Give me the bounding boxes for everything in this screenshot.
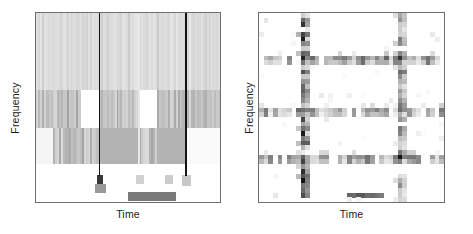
right-cell bbox=[268, 155, 273, 160]
right-cell bbox=[305, 174, 310, 179]
right-cell bbox=[398, 136, 403, 141]
right-cell bbox=[375, 108, 380, 113]
right-cell bbox=[301, 174, 306, 179]
right-cell bbox=[402, 84, 407, 89]
right-cell bbox=[435, 60, 440, 65]
right-cell bbox=[393, 103, 398, 108]
right-cell bbox=[426, 112, 431, 117]
right-cell bbox=[305, 145, 310, 150]
right-cell bbox=[352, 159, 357, 164]
right-cell bbox=[347, 93, 352, 98]
right-cell bbox=[305, 98, 310, 103]
right-y-axis-label-text: Frequency bbox=[243, 82, 255, 133]
left-cell bbox=[53, 128, 55, 164]
left-transient-line bbox=[185, 13, 187, 176]
right-cell bbox=[439, 159, 444, 164]
left-cell bbox=[141, 128, 143, 164]
right-cell bbox=[398, 145, 403, 150]
right-cell bbox=[264, 155, 269, 160]
right-cell bbox=[398, 193, 403, 198]
right-cell bbox=[398, 112, 403, 117]
right-cell bbox=[402, 70, 407, 75]
right-cell bbox=[370, 103, 375, 108]
right-cell bbox=[398, 159, 403, 164]
right-cell bbox=[402, 51, 407, 56]
right-cell bbox=[407, 56, 412, 61]
right-cell bbox=[333, 60, 338, 65]
right-cell bbox=[301, 131, 306, 136]
right-cell bbox=[264, 159, 269, 164]
right-cell bbox=[310, 108, 315, 113]
right-cell bbox=[338, 60, 343, 65]
left-cell bbox=[61, 128, 63, 164]
right-cell bbox=[375, 193, 380, 198]
right-cell bbox=[278, 51, 283, 56]
right-cell bbox=[296, 108, 301, 113]
right-cell bbox=[384, 155, 389, 160]
right-cell bbox=[389, 56, 394, 61]
right-cell bbox=[264, 108, 269, 113]
left-cell bbox=[69, 128, 71, 164]
right-cell bbox=[305, 56, 310, 61]
right-cell bbox=[273, 108, 278, 113]
right-cell bbox=[301, 56, 306, 61]
right-cell bbox=[393, 60, 398, 65]
right-cell bbox=[301, 65, 306, 70]
right-cell bbox=[338, 112, 343, 117]
right-cell bbox=[301, 178, 306, 183]
right-cell bbox=[352, 60, 357, 65]
right-cell bbox=[421, 60, 426, 65]
right-cell bbox=[402, 141, 407, 146]
right-cell bbox=[379, 159, 384, 164]
right-cell bbox=[315, 159, 320, 164]
right-cell bbox=[402, 103, 407, 108]
right-cell bbox=[365, 193, 370, 198]
right-cell bbox=[430, 159, 435, 164]
right-cell bbox=[365, 108, 370, 113]
right-cell bbox=[352, 112, 357, 117]
right-cell bbox=[333, 108, 338, 113]
right-cell bbox=[402, 126, 407, 131]
right-cell bbox=[296, 112, 301, 117]
left-cell bbox=[90, 128, 92, 164]
right-cell bbox=[389, 155, 394, 160]
right-cell bbox=[287, 159, 292, 164]
right-cell bbox=[398, 183, 403, 188]
right-cell bbox=[365, 56, 370, 61]
right-cell bbox=[301, 145, 306, 150]
right-cell bbox=[301, 169, 306, 174]
right-cell bbox=[324, 103, 329, 108]
right-cell bbox=[305, 51, 310, 56]
left-cell bbox=[59, 128, 61, 164]
left-cell bbox=[57, 128, 59, 164]
right-cell bbox=[287, 155, 292, 160]
right-cell bbox=[305, 18, 310, 23]
right-cell bbox=[305, 164, 310, 169]
right-cell bbox=[305, 60, 310, 65]
right-cell bbox=[398, 150, 403, 155]
right-cell bbox=[310, 155, 315, 160]
right-cell bbox=[324, 60, 329, 65]
right-cell bbox=[296, 174, 301, 179]
right-cell bbox=[310, 56, 315, 61]
right-cell bbox=[338, 56, 343, 61]
right-cell bbox=[402, 98, 407, 103]
left-y-axis-label-text: Frequency bbox=[9, 82, 21, 133]
right-cell bbox=[301, 126, 306, 131]
right-cell bbox=[324, 108, 329, 113]
right-cell bbox=[259, 159, 264, 164]
panel-left-dense-spectrogram: Frequency Time bbox=[0, 0, 236, 234]
right-cell bbox=[426, 60, 431, 65]
right-cell bbox=[301, 98, 306, 103]
right-cell bbox=[426, 56, 431, 61]
right-cell bbox=[356, 193, 361, 198]
right-cell bbox=[370, 56, 375, 61]
right-cell bbox=[273, 112, 278, 117]
right-cell bbox=[398, 103, 403, 108]
right-cell bbox=[402, 145, 407, 150]
right-cell bbox=[393, 41, 398, 46]
right-cell bbox=[301, 84, 306, 89]
right-cell bbox=[296, 32, 301, 37]
right-cell bbox=[416, 56, 421, 61]
right-cell bbox=[398, 79, 403, 84]
